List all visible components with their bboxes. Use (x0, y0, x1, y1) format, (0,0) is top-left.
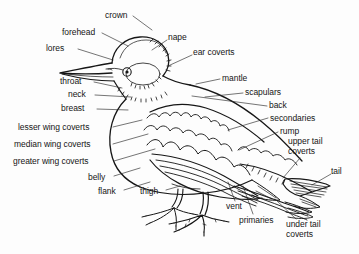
leader-line-crown (133, 16, 152, 30)
label-tail: tail (331, 167, 342, 177)
label-thigh: thigh (140, 187, 158, 197)
label-upper-tail-coverts: upper tail coverts (288, 137, 340, 156)
label-primaries: primaries (239, 216, 274, 226)
leader-line-forehead (102, 33, 128, 46)
label-mantle: mantle (222, 74, 247, 84)
label-flank: flank (98, 187, 116, 197)
leader-line-rump (239, 132, 278, 150)
leader-line-greater-wing-coverts (114, 149, 155, 161)
label-lores: lores (46, 44, 64, 54)
label-forehead: forehead (62, 28, 95, 38)
label-under-tail-coverts: under tail coverts (286, 220, 336, 239)
label-vent: vent (226, 202, 242, 212)
label-ear-coverts: ear coverts (193, 48, 235, 58)
leader-line-breast (97, 109, 128, 110)
leader-line-lores (78, 49, 113, 60)
label-throat: throat (60, 77, 81, 87)
label-greater-wing-coverts: greater wing coverts (13, 157, 89, 167)
label-back: back (269, 101, 287, 111)
label-median-wing-coverts: median wing coverts (14, 140, 91, 150)
label-nape: nape (168, 33, 187, 43)
label-scapulars: scapulars (245, 88, 281, 98)
label-crown: crown (105, 11, 127, 21)
leader-line-neck (95, 95, 131, 97)
label-belly: belly (88, 173, 105, 183)
leader-line-mantle (196, 79, 220, 84)
leader-line-median-wing-coverts (113, 134, 148, 144)
leader-line-upper-tail-coverts (283, 158, 300, 178)
label-neck: neck (68, 90, 86, 100)
label-lesser-wing-coverts: lesser wing coverts (18, 123, 89, 133)
leader-line-ear-coverts (168, 55, 192, 66)
leader-line-lesser-wing-coverts (113, 120, 142, 127)
bird-topography-diagram: crownforeheadloresthroatneckbreastlesser… (0, 0, 359, 254)
leader-line-back (192, 96, 267, 106)
label-breast: breast (61, 104, 84, 114)
leader-line-throat (94, 82, 122, 88)
label-secondaries: secondaries (270, 114, 315, 124)
